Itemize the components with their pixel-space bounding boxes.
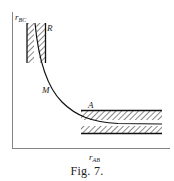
region-r: [27, 23, 46, 63]
x-axis-label: rAB: [89, 153, 100, 163]
figure-caption: Fig. 7.: [0, 164, 174, 179]
diagram-canvas: [0, 0, 174, 181]
label-r: R: [47, 24, 53, 33]
reaction-path-curve: [35, 23, 162, 124]
region-a-upper-hatch: [81, 111, 162, 120]
y-axis-label-sub: BC: [19, 17, 27, 23]
y-axis-label: rBC: [15, 13, 26, 23]
label-m: M: [42, 86, 50, 95]
region-r-left-hatch: [27, 23, 34, 63]
x-axis-label-sub: AB: [93, 157, 100, 163]
label-a: A: [88, 101, 94, 110]
region-a: [81, 111, 162, 134]
region-a-lower-hatch: [81, 126, 162, 133]
